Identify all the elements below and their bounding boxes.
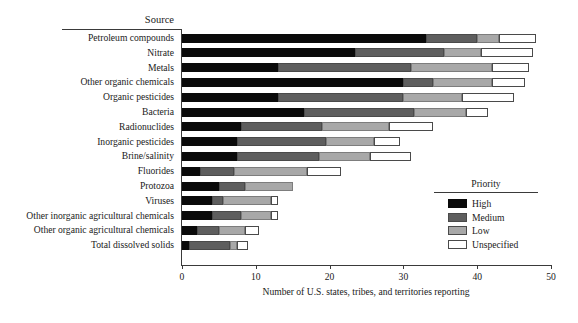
- bar-row: [182, 108, 488, 117]
- bar-segment-low: [433, 78, 492, 87]
- legend-swatch-medium: [448, 213, 467, 222]
- x-axis-tick: [256, 265, 257, 269]
- bar-segment-high: [182, 34, 426, 43]
- bar-segment-high: [182, 122, 241, 131]
- bar-segment-high: [182, 108, 304, 117]
- stacked-bar-chart: Source Petroleum compoundsNitrateMetalsO…: [0, 0, 578, 323]
- category-label: Petroleum compounds: [88, 33, 174, 43]
- bar-segment-medium: [403, 78, 433, 87]
- bar-segment-unspecified: [307, 167, 340, 176]
- bar-segment-low: [444, 48, 481, 57]
- category-label: Inorganic pesticides: [97, 137, 174, 147]
- bar-segment-unspecified: [466, 108, 488, 117]
- legend-swatch-unspecified: [448, 240, 467, 249]
- category-label: Other organic agricultural chemicals: [34, 225, 174, 235]
- bar-segment-unspecified: [370, 152, 411, 161]
- bar-segment-low: [477, 34, 499, 43]
- bar-row: [182, 78, 525, 87]
- category-label: Fluorides: [138, 166, 174, 176]
- bar-segment-high: [182, 211, 212, 220]
- legend-swatch-high: [448, 199, 467, 208]
- category-label: Total dissolved solids: [91, 240, 174, 250]
- x-axis-line: [181, 265, 551, 266]
- bar-segment-low: [403, 93, 462, 102]
- bar-segment-unspecified: [462, 93, 514, 102]
- bar-segment-high: [182, 196, 212, 205]
- bar-row: [182, 182, 293, 191]
- category-label: Bacteria: [142, 107, 174, 117]
- bar-row: [182, 48, 533, 57]
- category-label: Radionuclides: [119, 122, 174, 132]
- category-label: Metals: [148, 63, 174, 73]
- category-label: Organic pesticides: [103, 92, 174, 102]
- category-label: Protozoa: [140, 181, 174, 191]
- legend-title-rule: [434, 192, 538, 193]
- bar-segment-medium: [278, 63, 411, 72]
- bar-segment-medium: [278, 93, 403, 102]
- category-label: Viruses: [145, 196, 174, 206]
- bar-row: [182, 167, 341, 176]
- legend-label: Low: [472, 225, 490, 236]
- category-label: Other organic chemicals: [80, 77, 174, 87]
- category-label: Other inorganic agricultural chemicals: [26, 211, 174, 221]
- legend-label: Medium: [472, 212, 505, 223]
- bar-segment-low: [411, 63, 492, 72]
- bar-segment-unspecified: [374, 137, 400, 146]
- x-axis-tick: [551, 265, 552, 269]
- bar-segment-low: [326, 137, 374, 146]
- bar-segment-high: [182, 241, 189, 250]
- category-label: Nitrate: [147, 48, 174, 58]
- bar-row: [182, 137, 400, 146]
- plot-area: 01020304050Number of U.S. states, tribes…: [182, 30, 551, 265]
- category-label: Brine/salinity: [122, 151, 174, 161]
- bar-segment-medium: [304, 108, 415, 117]
- bar-row: [182, 122, 433, 131]
- source-header-rule: [62, 29, 182, 30]
- bar-segment-unspecified: [245, 226, 260, 235]
- x-axis-tick: [330, 265, 331, 269]
- bar-row: [182, 226, 259, 235]
- bar-segment-unspecified: [492, 63, 529, 72]
- bar-segment-low: [245, 182, 293, 191]
- bar-row: [182, 196, 278, 205]
- bar-row: [182, 34, 536, 43]
- bar-segment-medium: [200, 167, 233, 176]
- x-axis-tick-label: 0: [180, 271, 185, 282]
- legend-label: High: [472, 198, 491, 209]
- bar-segment-low: [414, 108, 466, 117]
- bar-segment-high: [182, 78, 403, 87]
- bar-segment-high: [182, 63, 278, 72]
- x-axis-tick: [477, 265, 478, 269]
- bar-segment-medium: [219, 182, 245, 191]
- bar-segment-high: [182, 137, 237, 146]
- bar-segment-high: [182, 152, 237, 161]
- bar-segment-medium: [237, 152, 318, 161]
- bar-segment-unspecified: [237, 241, 248, 250]
- bar-row: [182, 241, 248, 250]
- bar-segment-unspecified: [271, 211, 278, 220]
- bar-segment-medium: [426, 34, 478, 43]
- bar-segment-medium: [241, 122, 322, 131]
- bar-segment-medium: [212, 211, 242, 220]
- bar-segment-unspecified: [481, 48, 533, 57]
- bar-segment-medium: [212, 196, 223, 205]
- bar-segment-low: [241, 211, 271, 220]
- bar-segment-high: [182, 48, 355, 57]
- bar-segment-low: [230, 241, 237, 250]
- x-axis-tick-label: 20: [325, 271, 335, 282]
- legend-label: Unspecified: [472, 239, 518, 250]
- bar-segment-medium: [355, 48, 444, 57]
- bar-segment-low: [319, 152, 371, 161]
- bar-segment-low: [322, 122, 388, 131]
- bar-row: [182, 152, 411, 161]
- bar-row: [182, 211, 278, 220]
- source-header: Source: [145, 14, 174, 26]
- x-axis-tick: [403, 265, 404, 269]
- bar-row: [182, 63, 529, 72]
- bar-row: [182, 93, 514, 102]
- bar-segment-unspecified: [389, 122, 433, 131]
- x-axis-tick: [182, 265, 183, 269]
- bar-segment-unspecified: [271, 196, 278, 205]
- bar-segment-high: [182, 226, 197, 235]
- bar-segment-unspecified: [492, 78, 525, 87]
